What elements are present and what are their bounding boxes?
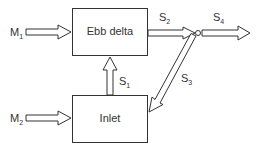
s1-label: S1 — [119, 76, 130, 89]
junction-node — [196, 31, 201, 36]
m2-arrow — [26, 111, 71, 125]
s4-arrow — [202, 26, 250, 40]
m1-arrow — [26, 25, 71, 39]
s1-arrow — [103, 57, 117, 95]
m2-label: M2 — [10, 113, 23, 126]
m1-label: M1 — [10, 27, 23, 40]
inlet-label: Inlet — [72, 112, 148, 124]
s4-label: S4 — [213, 12, 224, 25]
ebb-delta-label: Ebb delta — [72, 25, 148, 37]
s2-label: S2 — [159, 12, 170, 25]
s2-arrow — [148, 27, 195, 39]
s3-label: S3 — [181, 73, 192, 86]
